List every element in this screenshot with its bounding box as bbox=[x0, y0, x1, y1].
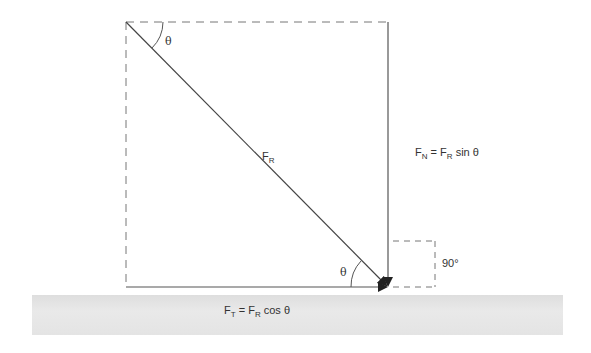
normal-eq: = bbox=[428, 146, 441, 158]
angle-arc-bottom bbox=[351, 261, 361, 287]
tangential-eq: = bbox=[236, 304, 249, 316]
normal-rhs-fn: sin θ bbox=[453, 146, 479, 158]
right-angle-label: 90° bbox=[442, 258, 459, 269]
resultant-force-line bbox=[126, 22, 386, 285]
theta-label-bottom: θ bbox=[340, 267, 347, 278]
tangential-rhs-fn: cos θ bbox=[261, 304, 290, 316]
normal-force-equation: FN = FR sin θ bbox=[415, 147, 479, 161]
angle-arc-top bbox=[152, 22, 163, 48]
resultant-force-label: FR bbox=[262, 151, 275, 165]
resultant-sub: R bbox=[269, 156, 275, 165]
force-diagram bbox=[0, 0, 591, 353]
tangential-rhs-main: F bbox=[248, 304, 255, 316]
tangential-main: F bbox=[224, 304, 231, 316]
resultant-main: F bbox=[262, 150, 269, 162]
theta-label-top: θ bbox=[165, 36, 172, 47]
tangential-force-equation: FT = FR cos θ bbox=[224, 305, 290, 319]
normal-main: F bbox=[415, 146, 422, 158]
right-angle-box bbox=[393, 241, 435, 287]
normal-rhs-main: F bbox=[440, 146, 447, 158]
